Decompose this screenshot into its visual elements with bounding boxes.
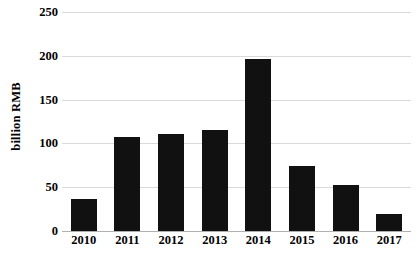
x-tick-label: 2012 <box>159 234 184 248</box>
x-tick-label: 2017 <box>377 234 402 248</box>
x-tick-label: 2016 <box>333 234 358 248</box>
x-tick-label: 2013 <box>202 234 227 248</box>
y-tick-label: 150 <box>39 93 58 106</box>
y-axis-tick-labels: 050100150200250 <box>26 12 58 231</box>
y-tick-label: 250 <box>39 6 58 19</box>
y-tick-label: 50 <box>46 181 59 194</box>
bar <box>289 166 315 231</box>
bar-chart: billion RMB 050100150200250 201020112012… <box>0 0 420 266</box>
bar <box>202 130 228 231</box>
bar-series <box>62 12 411 231</box>
bar <box>245 59 271 231</box>
y-tick-label: 200 <box>39 50 58 63</box>
y-tick-label: 100 <box>39 137 58 150</box>
x-tick-label: 2015 <box>289 234 314 248</box>
x-tick-label: 2010 <box>71 234 96 248</box>
bar <box>333 185 359 231</box>
bar <box>114 137 140 231</box>
y-tick-label: 0 <box>52 225 58 238</box>
bar <box>71 199 97 231</box>
x-tick-label: 2011 <box>115 234 139 248</box>
bar <box>376 214 402 231</box>
bar <box>158 134 184 231</box>
y-axis-title-text: billion RMB <box>9 82 24 151</box>
x-axis-tick-labels: 20102011201220132014201520162017 <box>62 234 411 254</box>
x-tick-label: 2014 <box>246 234 271 248</box>
axis-baseline <box>62 231 411 232</box>
